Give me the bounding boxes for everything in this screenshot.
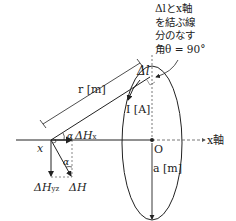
angle-annotation: Δlとx軸 を結ぶ線 分のなす 角θ = 90° [155,2,205,56]
alpha-bottom-label: α [63,157,69,168]
annotation-line-2: を結ぶ線 [155,16,205,30]
origin-dot [150,138,154,142]
annotation-line-4: 角θ = 90° [155,43,205,57]
annotation-line-3: 分のなす [155,29,205,43]
annotation-line-1: Δlとx軸 [155,2,205,16]
current-label: I [A] [126,104,150,115]
delta-hyz-label: ΔHyz [34,182,59,195]
x-axis-label: x軸 [207,135,224,146]
delta-hx-label: ΔHx [75,130,97,143]
delta-l-label: Δl [137,66,150,77]
alpha-top-label: α [67,131,73,142]
origin-label: O [154,144,163,155]
point-x-label: x [37,143,43,154]
radius-label: a [m] [153,163,182,174]
r-label: r [m] [78,84,106,95]
delta-h-label: ΔH [69,182,87,193]
